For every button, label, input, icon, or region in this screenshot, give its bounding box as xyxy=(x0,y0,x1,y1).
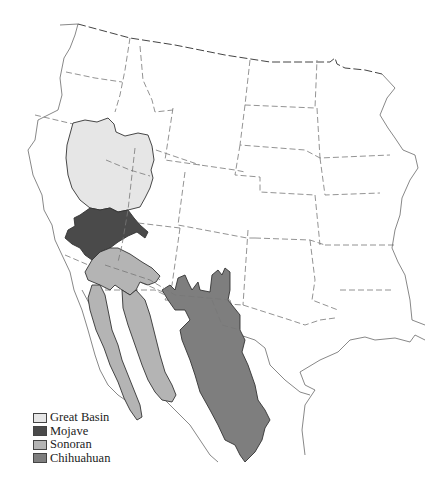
legend-item-great-basin: Great Basin xyxy=(33,411,110,425)
legend-label: Mojave xyxy=(50,425,88,438)
swatch-chihuahuan xyxy=(33,453,47,463)
legend-item-sonoran: Sonoran xyxy=(33,438,110,452)
legend-label: Chihuahuan xyxy=(50,452,110,465)
east-boundary xyxy=(380,74,425,325)
canada-border xyxy=(78,24,382,74)
legend-item-mojave: Mojave xyxy=(33,425,110,439)
gulf-coast xyxy=(300,335,425,455)
map-legend: Great Basin Mojave Sonoran Chihuahuan xyxy=(33,411,110,465)
legend-item-chihuahuan: Chihuahuan xyxy=(33,452,110,466)
swatch-great-basin xyxy=(33,413,47,423)
region-chihuahuan xyxy=(162,268,270,462)
swatch-sonoran xyxy=(33,440,47,450)
swatch-mojave xyxy=(33,426,47,436)
legend-label: Sonoran xyxy=(50,438,92,451)
region-great-basin xyxy=(66,118,154,212)
legend-label: Great Basin xyxy=(50,411,109,424)
